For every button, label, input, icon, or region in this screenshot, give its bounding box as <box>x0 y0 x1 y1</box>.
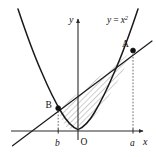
point-a-label: A <box>122 39 129 49</box>
curve-equation-label: y=x2 <box>106 14 129 26</box>
equation-y-part: y <box>106 15 112 25</box>
x-tick-a-label: a <box>130 138 135 148</box>
point-a-marker <box>131 48 136 53</box>
origin-label: O <box>81 137 88 147</box>
parabola-chord-figure: A B y x O b a y=x2 <box>0 0 156 157</box>
x-tick-b-label: b <box>55 138 60 148</box>
y-axis-label: y <box>68 14 74 25</box>
x-axis-label: x <box>142 136 148 147</box>
point-b-marker <box>56 106 61 111</box>
shaded-region <box>58 51 133 129</box>
figure-canvas: A B y x O b a y=x2 <box>0 0 156 157</box>
equation-exponent-part: 2 <box>125 14 129 21</box>
chord-line <box>13 41 153 146</box>
equation-equals-part: = <box>113 15 119 25</box>
point-b-label: B <box>46 100 52 110</box>
